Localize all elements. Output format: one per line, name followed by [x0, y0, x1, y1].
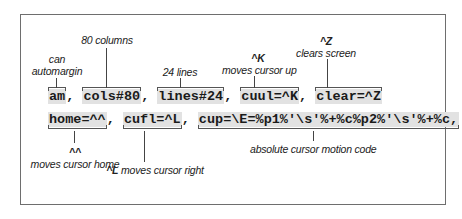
leader-cuul	[254, 76, 255, 88]
label-lines: 24 lines	[150, 66, 210, 78]
leader-am	[56, 78, 57, 88]
cap-cup: cup=\E=%p1%'\s'%+%c%p2%'\s'%+%c,	[198, 112, 459, 127]
leader-cufl	[144, 131, 145, 162]
leader-lines	[180, 78, 181, 88]
label-cols: 80 columns	[72, 34, 142, 46]
leader-cols	[106, 48, 107, 88]
label-clear: ^Z clears screen	[290, 35, 362, 59]
terminfo-row-2: home=^^, cufl=^L, cup=\E=%p1%'\s'%+%c%p2…	[48, 112, 459, 128]
cap-cols: cols#80	[82, 89, 141, 104]
cap-home: home=^^	[48, 112, 107, 127]
leader-cup	[313, 131, 314, 141]
cap-clear: clear=^Z	[315, 89, 382, 104]
cap-cufl: cufl=^L	[123, 112, 182, 127]
leader-clear	[327, 59, 328, 88]
leader-home	[74, 131, 75, 143]
label-cup: absolute cursor motion code	[250, 143, 376, 155]
label-cufl: ^L moves cursor right	[100, 164, 210, 176]
cap-cuul: cuul=^K	[240, 89, 299, 104]
cap-am: am	[48, 89, 66, 104]
label-am: can automargin	[30, 53, 84, 77]
cap-lines: lines#24	[157, 89, 224, 104]
terminfo-row-1: am, cols#80, lines#24, cuul=^K, clear=^Z	[48, 89, 382, 105]
label-cuul: ^K moves cursor up	[222, 52, 294, 76]
